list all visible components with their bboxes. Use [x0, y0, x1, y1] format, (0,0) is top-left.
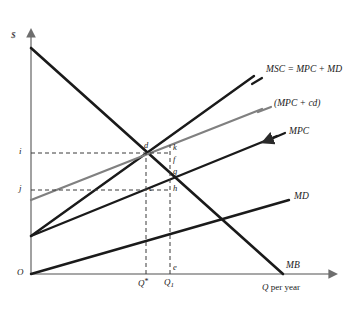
economics-diagram: $ O Q per year MSC = MPC + MD (MPC + cd)… [0, 0, 358, 311]
point-label-k: k [173, 143, 177, 152]
x-tick-label-qstar: Q* [138, 278, 149, 288]
x-tick-qstar-mark: * [145, 277, 149, 286]
y-axis-label: $ [11, 31, 16, 40]
curve-md [31, 200, 289, 274]
curve-label-mpc: MPC [289, 127, 309, 137]
point-label-h: h [173, 184, 177, 193]
leader-line-group [252, 78, 285, 139]
curve-label-mb: MB [286, 261, 300, 271]
curve-label-msc: MSC = MPC + MD [266, 65, 342, 75]
point-label-f: f [173, 155, 175, 164]
point-label-e: e [173, 263, 177, 272]
point-label-g: g [173, 167, 177, 176]
x-axis-label: Q per year [262, 283, 300, 292]
x-axis-label-text: per year [269, 282, 300, 292]
x-tick-q1-mark: 1 [171, 281, 175, 289]
curve-label-md: MD [294, 192, 309, 202]
y-tick-label-j: j [19, 184, 22, 193]
y-tick-label-i: i [19, 147, 22, 156]
leader-msc [252, 78, 262, 84]
curve-group [31, 48, 289, 274]
point-label-d: d [144, 141, 148, 150]
leader-mpc [271, 133, 285, 139]
curve-label-mpc-plus-cd: (MPC + cd) [274, 99, 321, 109]
diagram-canvas [0, 0, 358, 311]
origin-label: O [17, 268, 24, 277]
point-label-c: c [149, 184, 153, 193]
x-tick-label-q1: Q1 [164, 278, 174, 289]
